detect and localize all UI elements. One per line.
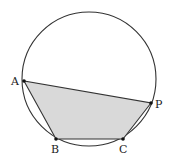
geometry-diagram: A B C P — [0, 0, 172, 166]
point-C — [121, 137, 125, 141]
label-P: P — [155, 98, 163, 111]
label-C: C — [119, 143, 127, 156]
label-B: B — [51, 143, 59, 156]
point-P — [149, 101, 153, 105]
point-A — [22, 79, 26, 83]
label-A: A — [10, 75, 20, 88]
point-B — [54, 137, 58, 141]
